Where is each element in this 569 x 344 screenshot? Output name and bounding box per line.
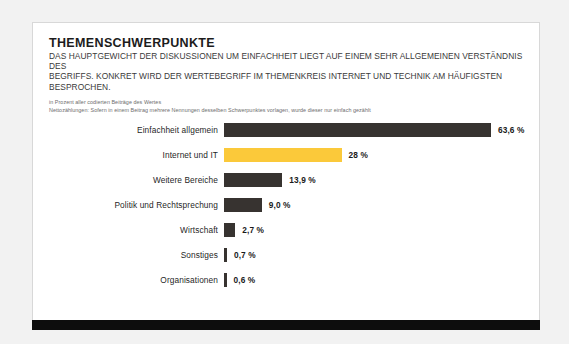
note-unit: in Prozent aller codierten Beiträge des …: [49, 98, 525, 106]
bar-plot-area: 9,0 %: [224, 198, 539, 212]
chart-header: THEMENSCHWERPUNKTE DAS HAUPTGEWICHT DER …: [49, 36, 525, 114]
bar-plot-area: 28 %: [224, 148, 539, 162]
bar: [224, 198, 262, 212]
bar-category-label: Organisationen: [33, 273, 218, 287]
bar-category-label: Wirtschaft: [33, 223, 218, 237]
page-title: THEMENSCHWERPUNKTE: [49, 36, 525, 50]
bar-value-label: 28 %: [349, 148, 368, 162]
note-methodology: Nettozählungen: Sofern in einem Beitrag …: [49, 106, 525, 114]
bar: [224, 173, 282, 187]
bar-value-label: 0,7 %: [234, 248, 256, 262]
footer-accent-bar: [32, 320, 540, 330]
bar-plot-area: 2,7 %: [224, 223, 539, 237]
bar-row: Organisationen0,6 %: [33, 273, 539, 298]
subtitle-line-1: DAS HAUPTGEWICHT DER DISKUSSIONEN UM EIN…: [49, 51, 525, 71]
bar-category-label: Einfachheit allgemein: [33, 123, 218, 137]
bar-plot-area: 13,9 %: [224, 173, 539, 187]
bar-row: Sonstiges0,7 %: [33, 248, 539, 273]
bar: [224, 248, 227, 262]
bar-category-label: Weitere Bereiche: [33, 173, 218, 187]
bar: [224, 223, 235, 237]
bar-row: Wirtschaft2,7 %: [33, 223, 539, 248]
bar-value-label: 0,6 %: [234, 273, 256, 287]
chart-card: THEMENSCHWERPUNKTE DAS HAUPTGEWICHT DER …: [32, 22, 540, 320]
bar-chart: Einfachheit allgemein63,6 %Internet und …: [33, 123, 539, 313]
bar-category-label: Politik und Rechtsprechung: [33, 198, 218, 212]
bar-value-label: 2,7 %: [242, 223, 264, 237]
bar-value-label: 13,9 %: [289, 173, 315, 187]
bar-row: Weitere Bereiche13,9 %: [33, 173, 539, 198]
bar-plot-area: 63,6 %: [224, 123, 539, 137]
subtitle-line-2: BEGRIFFS. KONKRET WIRD DER WERTEBEGRIFF …: [49, 71, 525, 91]
bar-plot-area: 0,7 %: [224, 248, 539, 262]
chart-notes: in Prozent aller codierten Beiträge des …: [49, 98, 525, 114]
bar: [224, 123, 491, 137]
bar-category-label: Internet und IT: [33, 148, 218, 162]
bar-value-label: 63,6 %: [498, 123, 524, 137]
bar-plot-area: 0,6 %: [224, 273, 539, 287]
bar-row: Politik und Rechtsprechung9,0 %: [33, 198, 539, 223]
bar-category-label: Sonstiges: [33, 248, 218, 262]
bar-row: Internet und IT28 %: [33, 148, 539, 173]
bar-row: Einfachheit allgemein63,6 %: [33, 123, 539, 148]
page-root: THEMENSCHWERPUNKTE DAS HAUPTGEWICHT DER …: [0, 0, 569, 344]
bar-value-label: 9,0 %: [269, 198, 291, 212]
bar: [224, 148, 342, 162]
bar: [224, 273, 227, 287]
